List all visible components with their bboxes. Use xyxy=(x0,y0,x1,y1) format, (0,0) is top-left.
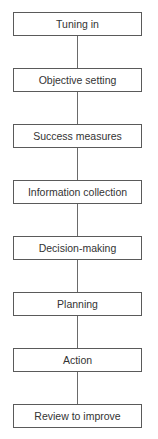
step-label: Tuning in xyxy=(56,18,99,30)
step-decision-making: Decision-making xyxy=(13,236,142,260)
step-label: Action xyxy=(63,354,92,366)
step-label: Information collection xyxy=(28,186,127,198)
step-review-to-improve: Review to improve xyxy=(13,404,142,428)
step-tuning-in: Tuning in xyxy=(13,12,142,36)
connector xyxy=(77,36,78,68)
connector xyxy=(77,372,78,404)
step-information-collection: Information collection xyxy=(13,180,142,204)
connector xyxy=(77,204,78,236)
step-label: Objective setting xyxy=(39,74,117,86)
connector xyxy=(77,148,78,180)
step-success-measures: Success measures xyxy=(13,124,142,148)
step-label: Planning xyxy=(57,298,98,310)
step-objective-setting: Objective setting xyxy=(13,68,142,92)
step-label: Decision-making xyxy=(39,242,117,254)
step-action: Action xyxy=(13,348,142,372)
connector xyxy=(77,92,78,124)
flowchart: Tuning in Objective setting Success meas… xyxy=(0,0,158,439)
connector xyxy=(77,316,78,348)
step-label: Success measures xyxy=(33,130,122,142)
connector xyxy=(77,260,78,292)
step-planning: Planning xyxy=(13,292,142,316)
step-label: Review to improve xyxy=(34,410,120,422)
